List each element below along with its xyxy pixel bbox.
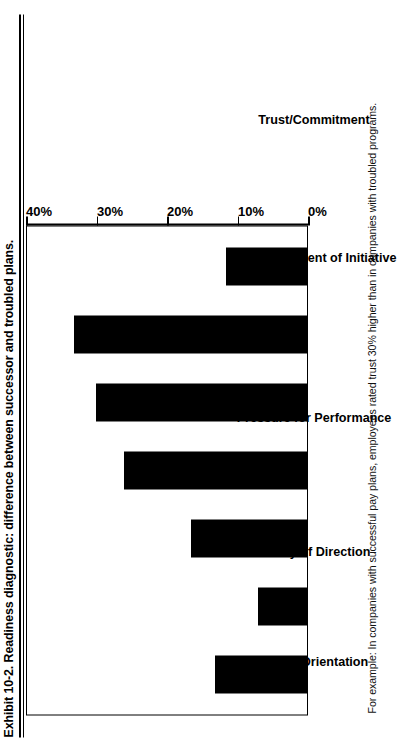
axis-tick-label: 10% xyxy=(238,204,264,219)
axis-tick-label: 40% xyxy=(26,204,52,219)
axis-tick-label: 0% xyxy=(308,204,327,219)
bar-slot xyxy=(27,572,307,640)
category-slot: Clarity of Direction xyxy=(310,488,328,601)
bar-slot xyxy=(27,504,307,572)
exhibit-title-block: Exhibit 10-2. Readiness diagnostic: diff… xyxy=(2,7,24,737)
value-axis: 0%10%20%30%40% xyxy=(26,223,308,225)
bar-series xyxy=(27,226,307,714)
category-label: Clarity of Direction xyxy=(258,544,371,558)
bar-slot xyxy=(27,436,307,504)
bar-slot xyxy=(27,232,307,300)
category-slot: Trust/Commitment xyxy=(310,57,328,168)
category-label: Group Orientation xyxy=(260,655,368,669)
category-slot: Pressure for Performance xyxy=(310,333,328,488)
bar xyxy=(74,315,307,353)
title-divider-thick xyxy=(19,14,21,737)
bar xyxy=(124,451,307,489)
axis-tick-label: 30% xyxy=(97,204,123,219)
plot-area xyxy=(26,225,308,715)
category-label: Trust/Commitment xyxy=(258,112,369,126)
axis-tick-label: 20% xyxy=(167,204,193,219)
exhibit-caption: For example: In companies with successfu… xyxy=(366,13,379,713)
bar-slot xyxy=(27,368,307,436)
page-title: Exhibit 10-2. Readiness diagnostic: diff… xyxy=(2,7,16,737)
bar xyxy=(258,587,307,625)
bar-slot xyxy=(27,300,307,368)
bar-slot xyxy=(27,640,307,708)
category-slot: Performance Measurement xyxy=(310,0,328,57)
category-slot: Group Orientation xyxy=(310,601,328,709)
category-axis: Group OrientationClarity of DirectionPre… xyxy=(310,225,328,715)
category-slot: Encouragement of Initiative xyxy=(310,168,328,333)
title-divider-thin xyxy=(23,14,24,737)
